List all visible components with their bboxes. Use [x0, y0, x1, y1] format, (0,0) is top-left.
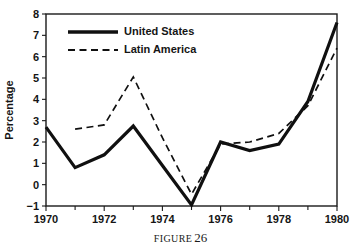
x-tick-label: 1976 — [208, 213, 232, 225]
y-tick-label: 1 — [33, 157, 39, 169]
x-tick-label: 1978 — [267, 213, 291, 225]
figure-caption: FIGURE26 — [0, 228, 361, 246]
x-tick-label: 1980 — [325, 213, 349, 225]
y-tick-label: 0 — [33, 179, 39, 191]
y-tick-label: 6 — [33, 51, 39, 63]
figure-caption-word: FIGURE — [154, 233, 193, 244]
y-tick-label: −1 — [26, 200, 39, 212]
x-tick-label: 1970 — [34, 213, 58, 225]
figure-container: −1012345678 197019721974197619781980 Per… — [0, 0, 361, 248]
y-tick-label: 5 — [33, 72, 39, 84]
y-tick-label: 3 — [33, 115, 39, 127]
x-tick-label: 1972 — [92, 213, 116, 225]
line-chart: −1012345678 197019721974197619781980 Per… — [0, 0, 361, 248]
y-axis-title: Percentage — [3, 80, 15, 139]
legend-label-united-states: United States — [124, 25, 194, 37]
figure-caption-number: 26 — [194, 230, 207, 245]
chart-background — [0, 0, 361, 248]
y-tick-label: 2 — [33, 136, 39, 148]
y-tick-label: 8 — [33, 8, 39, 20]
legend-label-latin-america: Latin America — [124, 43, 197, 55]
y-tick-label: 7 — [33, 29, 39, 41]
y-tick-label: 4 — [33, 93, 40, 105]
x-tick-label: 1974 — [150, 213, 175, 225]
